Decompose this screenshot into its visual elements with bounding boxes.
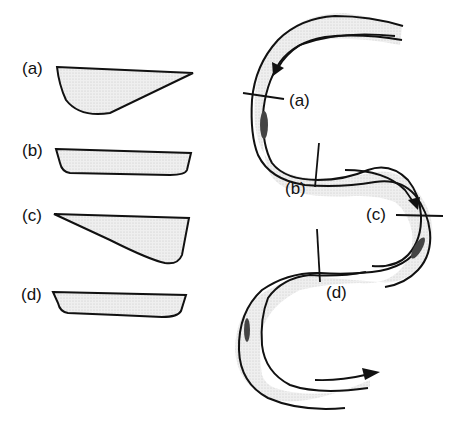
river-label-b: (b) — [285, 180, 306, 197]
section-line-c — [396, 215, 443, 216]
cross-section-label-c: (c) — [22, 207, 42, 224]
pool-shading-a — [260, 111, 268, 139]
river-label-d: (d) — [326, 284, 347, 301]
cross-section-c — [54, 214, 189, 263]
river-label-c: (c) — [366, 206, 386, 223]
river-channel — [235, 13, 432, 401]
cross-section-a — [57, 67, 193, 114]
flow-arrow-lower — [315, 375, 365, 380]
pool-shading-lower — [244, 318, 250, 342]
cross-section-label-a: (a) — [22, 60, 43, 77]
cross-section-b — [56, 149, 191, 175]
river-bank-inner — [263, 36, 421, 267]
river-meander-diagram — [0, 0, 466, 425]
cross-section-d — [53, 292, 186, 317]
section-line-d — [317, 229, 320, 282]
cross-section-label-d: (d) — [21, 286, 42, 303]
river-label-a: (a) — [289, 92, 310, 109]
cross-section-label-b: (b) — [22, 142, 43, 159]
arrowhead-lower — [362, 368, 380, 380]
